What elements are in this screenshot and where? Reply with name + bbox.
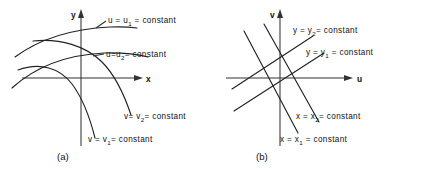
label-u2-pre: u=u xyxy=(106,50,121,59)
x-axis xyxy=(22,75,143,81)
label-v2-post: = constant xyxy=(144,112,186,121)
label-x2-pre: x = x xyxy=(296,112,315,121)
u-axis-arrowhead xyxy=(344,75,353,81)
label-y1-post: = constant xyxy=(329,48,374,57)
label-v1-pre: v = v xyxy=(88,135,108,144)
label-u1: u = u1 = constant xyxy=(108,16,177,27)
label-y1: y = y1 = constant xyxy=(306,48,374,59)
v-axis-label: v xyxy=(270,10,275,20)
label-u2: u=u2= constant xyxy=(106,50,167,61)
label-x1-post: = constant xyxy=(303,135,348,144)
line-x1 xyxy=(244,31,298,133)
panel-b: v u y = y2= constant y = y1 = constant x… xyxy=(218,0,435,170)
x-axis-arrowhead xyxy=(134,75,143,81)
label-v2-pre: v= v xyxy=(124,112,141,121)
panel-a: y x u = u1 = constant u=u2= constant xyxy=(0,0,218,170)
panel-b-diagram: v u y = y2= constant y = y1 = constant x… xyxy=(218,0,435,170)
panel-b-caption: (b) xyxy=(256,151,268,162)
label-v2: v= v2= constant xyxy=(124,112,186,123)
line-y2 xyxy=(232,36,313,89)
label-x2-post: = constant xyxy=(319,112,361,121)
x-axis-label: x xyxy=(146,74,151,84)
y-axis-label: y xyxy=(71,10,76,20)
label-v1-post: = constant xyxy=(111,135,153,144)
curve-v1 xyxy=(18,66,95,138)
label-u1-post: = constant xyxy=(132,16,177,25)
label-y2-post: = constant xyxy=(316,26,358,35)
label-u1-pre: u = u xyxy=(108,16,128,25)
panel-a-caption: (a) xyxy=(57,151,69,162)
label-x1-pre: x = x xyxy=(280,135,299,144)
curvilinear-coordinates-figure: y x u = u1 = constant u=u2= constant xyxy=(0,0,435,170)
panel-a-diagram: y x u = u1 = constant u=u2= constant xyxy=(0,0,218,170)
label-x1: x = x1 = constant xyxy=(280,135,348,146)
y-axis-arrowhead xyxy=(78,9,84,18)
line-y1 xyxy=(234,53,324,111)
label-y2-pre: y = y xyxy=(293,26,313,35)
label-u2-post: = constant xyxy=(125,50,167,59)
label-y1-pre: y = y xyxy=(306,48,326,57)
v-axis-arrowhead xyxy=(277,9,283,18)
label-v1: v = v1= constant xyxy=(88,135,153,146)
line-x2 xyxy=(264,24,319,122)
u-axis-label: u xyxy=(357,74,362,84)
label-y2: y = y2= constant xyxy=(293,26,358,37)
label-x2: x = x2= constant xyxy=(296,112,361,123)
